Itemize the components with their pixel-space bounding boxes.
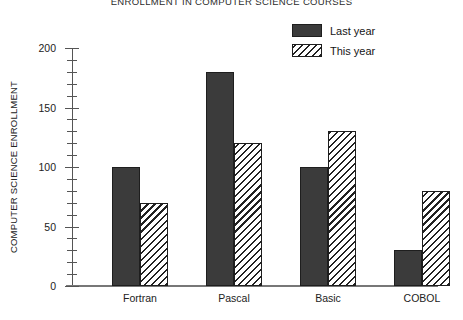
y-axis-tick-label: 150 [38,102,56,114]
bar[interactable] [394,250,422,286]
y-axis-tick-major: 0 [65,286,79,287]
bar-group: Pascal [206,48,262,286]
bar-group: COBOL [394,48,450,286]
x-axis-category-label: COBOL [404,292,441,304]
x-axis-category-label: Fortran [123,292,157,304]
y-axis-tick-label: 50 [44,221,56,233]
chart-title: ENROLLMENT IN COMPUTER SCIENCE COURSES [0,0,463,7]
bar[interactable] [234,143,262,286]
legend-item[interactable]: This year [292,42,375,59]
x-axis-category-label: Pascal [218,292,250,304]
legend-swatch [292,24,322,37]
legend-label: Last year [330,25,375,37]
bars-layer: FortranPascalBasicCOBOL [72,48,438,286]
bar-group: Fortran [112,48,168,286]
legend-label: This year [330,45,375,57]
bar[interactable] [300,167,328,286]
bar[interactable] [422,191,450,286]
y-axis-tick-label: 100 [38,161,56,173]
bar-group: Basic [300,48,356,286]
plot-area: 050100150200 FortranPascalBasicCOBOL [72,48,438,286]
y-axis-tick-label: 0 [50,280,56,292]
legend-item[interactable]: Last year [292,22,375,39]
y-axis-title: COMPUTER SCIENCE ENROLLMENT [8,48,22,286]
bar[interactable] [206,72,234,286]
bar[interactable] [140,203,168,286]
chart-legend: Last yearThis year [292,22,375,62]
bar[interactable] [328,131,356,286]
x-axis-category-label: Basic [315,292,341,304]
y-axis-tick-label: 200 [38,42,56,54]
legend-swatch [292,44,322,57]
bar[interactable] [112,167,140,286]
